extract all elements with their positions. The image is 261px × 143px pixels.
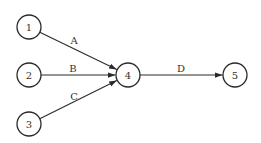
edge-label-a: A [69, 35, 78, 46]
node-2: 2 [17, 63, 41, 87]
node-label: 2 [26, 70, 32, 81]
edge-label-d: D [177, 63, 185, 74]
node-label: 4 [125, 70, 131, 81]
node-1: 1 [17, 15, 41, 39]
edge-label-b: B [69, 63, 76, 74]
edge-3-4 [40, 81, 117, 119]
node-label: 3 [26, 119, 32, 130]
node-label: 5 [232, 70, 238, 81]
edge-label-c: C [70, 91, 78, 102]
node-label: 1 [26, 22, 32, 33]
node-4: 4 [116, 63, 140, 87]
edge-1-4 [40, 32, 117, 69]
node-5: 5 [223, 63, 247, 87]
network-diagram: ABCD 12345 [0, 0, 261, 143]
node-3: 3 [17, 112, 41, 136]
